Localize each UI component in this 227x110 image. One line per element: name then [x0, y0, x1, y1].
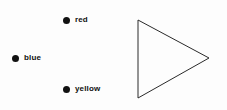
filled-circle-icon [63, 17, 70, 24]
legend-item-label: blue [24, 54, 41, 62]
right-pointing-triangle-outline [138, 20, 209, 98]
legend-item-label: yellow [75, 85, 100, 93]
legend-item-red[interactable]: red [63, 16, 88, 24]
filled-circle-icon [12, 55, 19, 62]
image-canvas: red blue yellow [0, 0, 227, 110]
legend-item-blue[interactable]: blue [12, 54, 41, 62]
filled-circle-icon [63, 86, 70, 93]
legend-item-label: red [75, 16, 88, 24]
triangle-svg [133, 14, 217, 104]
legend-item-yellow[interactable]: yellow [63, 85, 100, 93]
triangle-shape [133, 14, 217, 104]
